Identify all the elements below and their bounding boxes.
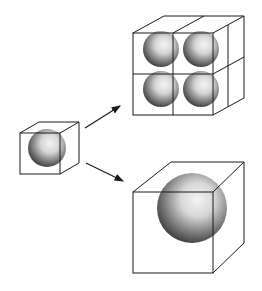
diagram-canvas: [0, 0, 262, 291]
subdivided-cube: [133, 16, 244, 115]
arrow-to-large: [86, 163, 123, 181]
subdivided-top-divider: [173, 16, 204, 33]
sphere-top-right: [183, 31, 219, 67]
arrow-to-subdivided: [85, 106, 120, 128]
large-cube: [133, 162, 244, 273]
large-sphere: [157, 173, 227, 243]
sphere-bottom-right: [183, 71, 219, 107]
sphere-bottom-left: [143, 71, 179, 107]
small-cube: [20, 122, 79, 174]
sphere-top-left: [143, 31, 179, 67]
